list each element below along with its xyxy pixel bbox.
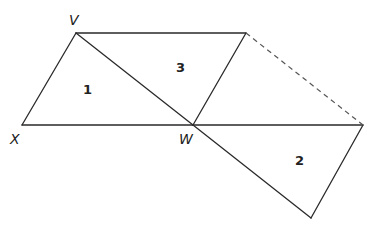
vertex-label-v: V (69, 12, 80, 28)
region-label-2: 2 (295, 153, 304, 168)
vertex-label-w: W (179, 131, 194, 147)
edge-top-w (193, 33, 246, 125)
dashed-edge-top-right (246, 33, 363, 125)
edge-right-bottom (311, 125, 363, 218)
edge-w-bottom (193, 125, 311, 218)
geometry-diagram: V X W 1 3 2 (0, 0, 373, 230)
region-label-3: 3 (176, 60, 185, 75)
edge-v-w (76, 33, 193, 125)
solid-edges (22, 33, 363, 218)
vertex-label-x: X (9, 131, 20, 147)
edge-v-x (22, 33, 76, 125)
region-label-1: 1 (83, 82, 92, 97)
